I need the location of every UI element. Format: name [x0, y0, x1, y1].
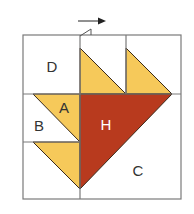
label-h: H	[101, 116, 112, 133]
label-d: D	[47, 58, 58, 75]
arrow-right-icon	[78, 18, 106, 25]
label-c: C	[133, 162, 144, 179]
top-left-light-triangle	[80, 48, 126, 94]
label-a: A	[59, 99, 69, 116]
label-b: B	[34, 117, 44, 134]
triangle-h	[80, 94, 172, 189]
quilt-block-diagram: D A B H C	[0, 0, 194, 214]
top-right-light-triangle	[126, 48, 172, 94]
bottom-left-light-triangle	[33, 142, 80, 189]
